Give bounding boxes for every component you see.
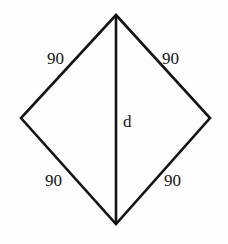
rhombus-drawing: [0, 0, 228, 244]
rhombus-figure: 90 90 90 90 d: [0, 0, 228, 244]
diagonal-label: d: [123, 113, 132, 130]
side-label-top-left: 90: [47, 50, 64, 67]
side-label-top-right: 90: [162, 50, 179, 67]
side-label-bottom-left: 90: [45, 172, 62, 189]
side-label-bottom-right: 90: [164, 172, 181, 189]
